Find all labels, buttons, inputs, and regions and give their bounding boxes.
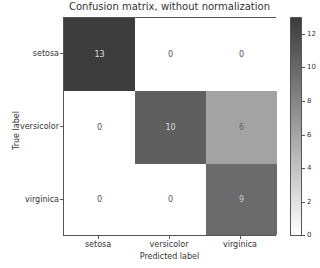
- colorbar-tick-mark: [302, 101, 305, 102]
- x-axis-label: Predicted label: [63, 252, 276, 261]
- colorbar-tick-mark: [302, 67, 305, 68]
- colorbar-tick-mark: [302, 168, 305, 169]
- colorbar: [290, 17, 302, 236]
- cell-setosa-setosa: 13: [64, 18, 135, 91]
- y-tick-label: versicolor: [20, 122, 59, 131]
- x-tick-label: versicolor: [149, 240, 188, 249]
- cell-setosa-versicolor: 0: [135, 18, 206, 91]
- colorbar-tick-label: 4: [307, 164, 311, 172]
- x-tick-mark: [169, 236, 170, 239]
- colorbar-tick-label: 12: [307, 30, 316, 38]
- y-tick-mark: [60, 53, 63, 54]
- colorbar-tick-mark: [302, 34, 305, 35]
- y-tick-label: setosa: [33, 49, 59, 58]
- cell-versicolor-virginica: 6: [206, 91, 277, 164]
- chart-title: Confusion matrix, without normalization: [63, 1, 276, 12]
- colorbar-tick-label: 10: [307, 63, 316, 71]
- colorbar-tick-mark: [302, 202, 305, 203]
- x-tick-label: setosa: [85, 240, 111, 249]
- colorbar-tick-label: 2: [307, 198, 311, 206]
- colorbar-tick-label: 6: [307, 131, 311, 139]
- colorbar-tick-label: 8: [307, 97, 311, 105]
- cell-virginica-versicolor: 0: [135, 164, 206, 235]
- y-tick-mark: [60, 126, 63, 127]
- colorbar-tick-label: 0: [307, 231, 311, 239]
- cell-setosa-virginica: 0: [206, 18, 277, 91]
- confusion-matrix-plot: 13 0 0 0 10 6 0 0 9: [63, 17, 276, 236]
- colorbar-tick-mark: [302, 235, 305, 236]
- y-tick-mark: [60, 199, 63, 200]
- cell-versicolor-setosa: 0: [64, 91, 135, 164]
- colorbar-tick-mark: [302, 135, 305, 136]
- cell-virginica-virginica: 9: [206, 164, 277, 235]
- cell-virginica-setosa: 0: [64, 164, 135, 235]
- x-tick-label: virginica: [223, 240, 257, 249]
- cell-versicolor-versicolor: 10: [135, 91, 206, 164]
- y-axis-label: True label: [12, 101, 21, 161]
- y-tick-label: virginica: [25, 195, 59, 204]
- x-tick-mark: [98, 236, 99, 239]
- x-tick-mark: [240, 236, 241, 239]
